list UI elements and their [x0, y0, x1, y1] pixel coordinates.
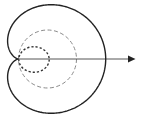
arrowhead-icon: [128, 56, 136, 63]
diagram-canvas: [0, 0, 143, 124]
cardioid-diagram: [0, 0, 143, 124]
